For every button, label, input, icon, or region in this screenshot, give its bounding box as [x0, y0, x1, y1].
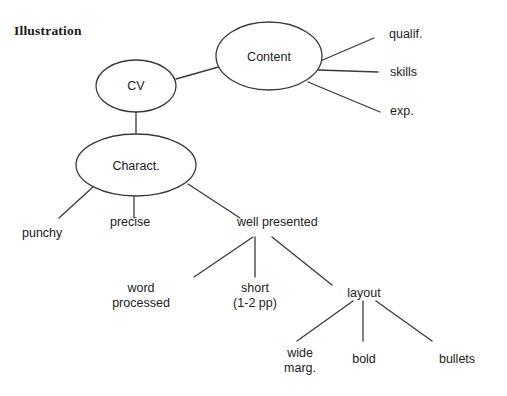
node-label-qualif[interactable]: qualif.	[389, 27, 422, 41]
node-label-word-processed[interactable]: word processed	[112, 281, 170, 311]
edge-layout-bullets	[376, 301, 432, 341]
node-label-layout[interactable]: layout	[347, 286, 380, 300]
node-label-exp[interactable]: exp.	[390, 104, 414, 118]
node-label-wide-marg-line2: marg.	[284, 361, 316, 376]
edge-layout-wide-marg	[297, 301, 353, 341]
node-label-punchy[interactable]: punchy	[22, 226, 62, 240]
node-label-content[interactable]: Content	[247, 50, 291, 64]
edge-well-presented-layout	[272, 237, 332, 285]
node-label-word-processed-line1: word	[112, 281, 170, 296]
node-label-skills[interactable]: skills	[390, 65, 417, 79]
node-label-precise[interactable]: precise	[110, 215, 150, 229]
illustration-diagram-page: Illustration CV Content Charact. qualif.…	[0, 0, 507, 396]
node-label-short[interactable]: short (1-2 pp)	[233, 281, 277, 311]
node-label-word-processed-line2: processed	[112, 296, 170, 311]
edge-content-qualif	[318, 38, 374, 62]
node-label-short-line1: short	[233, 281, 277, 296]
node-label-bullets[interactable]: bullets	[439, 352, 475, 366]
node-label-wide-marg-line1: wide	[284, 346, 316, 361]
node-label-charact[interactable]: Charact.	[112, 159, 159, 173]
node-label-short-line2: (1-2 pp)	[233, 296, 277, 311]
node-label-cv[interactable]: CV	[127, 79, 144, 93]
edge-content-exp	[308, 82, 380, 112]
node-label-well-presented[interactable]: well presented	[237, 215, 318, 229]
edge-well-presented-word-processed	[194, 237, 253, 277]
edge-charact-well-presented	[188, 184, 240, 218]
edge-content-skills	[318, 70, 378, 72]
edge-cv-content	[176, 66, 222, 79]
edge-charact-punchy	[59, 186, 94, 218]
node-label-bold[interactable]: bold	[352, 352, 376, 366]
node-label-wide-marg[interactable]: wide marg.	[284, 346, 316, 376]
